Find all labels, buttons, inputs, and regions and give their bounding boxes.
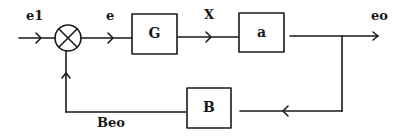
label-beo: Beo	[97, 116, 125, 129]
block-diagram: e1 e X eo Beo G a B	[0, 0, 404, 138]
block-g-label: G	[132, 26, 177, 40]
label-e: e	[106, 9, 114, 22]
block-a-label: a	[239, 25, 284, 39]
label-x: X	[204, 8, 214, 21]
block-b-label: B	[187, 100, 231, 114]
label-eo: eo	[371, 9, 388, 22]
label-e1: e1	[26, 9, 43, 22]
diagram-lines	[0, 0, 404, 138]
